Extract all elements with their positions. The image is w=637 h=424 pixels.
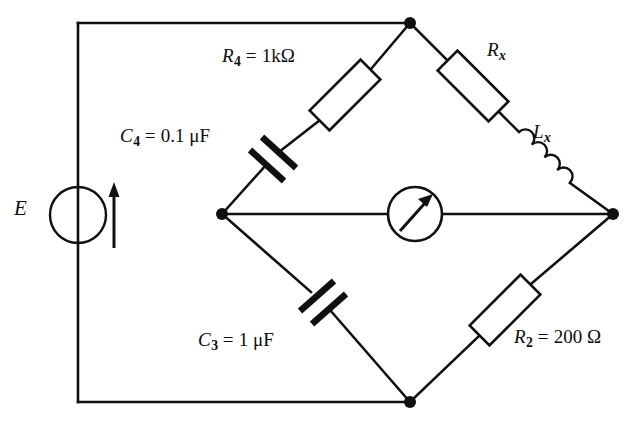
label-r4-symbol: R bbox=[222, 45, 234, 66]
arm-bottom-right bbox=[410, 214, 613, 402]
label-r2-symbol: R bbox=[514, 326, 526, 347]
wire-arm-bl-seg1 bbox=[222, 214, 311, 292]
wire-arm-tl-seg1 bbox=[222, 165, 266, 214]
node-dot-left bbox=[216, 208, 228, 220]
label-c4-value: 0.1 μF bbox=[161, 125, 210, 146]
label-c3-equals: = bbox=[223, 329, 234, 350]
node-dot-right bbox=[607, 208, 619, 220]
detector-branch bbox=[222, 187, 613, 241]
label-r2-value: 200 Ω bbox=[554, 326, 601, 347]
resistor-r4-symbol bbox=[310, 60, 381, 131]
wire-arm-tr-seg3 bbox=[570, 183, 613, 214]
wire-arm-br-seg1 bbox=[410, 336, 479, 402]
ac-voltage-source[interactable] bbox=[50, 182, 120, 248]
label-lx-symbol: L bbox=[533, 121, 544, 142]
label-r4: R4 = 1kΩ bbox=[222, 46, 295, 69]
label-lx: Lx bbox=[533, 122, 551, 145]
label-r4-value: 1kΩ bbox=[262, 45, 295, 66]
label-c4: C4 = 0.1 μF bbox=[120, 126, 210, 149]
wire-arm-bl-seg2 bbox=[330, 310, 410, 402]
label-rx: Rx bbox=[487, 40, 506, 63]
wire-arm-tr-seg2 bbox=[499, 112, 519, 132]
label-c3: C3 = 1 μF bbox=[198, 330, 274, 353]
label-c3-value: 1 μF bbox=[239, 329, 274, 350]
label-c4-symbol: C bbox=[120, 125, 133, 146]
label-source-e-symbol: E bbox=[14, 196, 27, 220]
label-c3-subscript: 3 bbox=[211, 338, 218, 353]
label-c4-equals: = bbox=[145, 125, 156, 146]
node-dot-top bbox=[404, 17, 416, 29]
wire-arm-tr-seg1 bbox=[410, 23, 447, 60]
label-r2-subscript: 2 bbox=[526, 335, 533, 350]
circuit-diagram-canvas: E R4 = 1kΩ C4 = 0.1 μF Rx Lx C3 = 1 μF R… bbox=[0, 0, 637, 424]
label-r4-subscript: 4 bbox=[234, 54, 241, 69]
label-rx-subscript: x bbox=[499, 48, 506, 63]
arm-bottom-left bbox=[222, 214, 410, 402]
wire-arm-br-seg2 bbox=[531, 214, 613, 284]
label-r2: R2 = 200 Ω bbox=[514, 327, 601, 350]
source-arrow-head bbox=[109, 182, 120, 197]
galvanometer[interactable] bbox=[388, 187, 442, 241]
label-lx-subscript: x bbox=[544, 130, 551, 145]
label-c4-subscript: 4 bbox=[133, 134, 140, 149]
circuit-schematic-svg bbox=[0, 0, 637, 424]
label-rx-symbol: R bbox=[487, 39, 499, 60]
arm-top-right bbox=[410, 23, 613, 214]
node-dot-bottom bbox=[404, 396, 416, 408]
label-source-e: E bbox=[14, 198, 27, 219]
label-r4-equals: = bbox=[246, 45, 257, 66]
resistor-r4-body bbox=[310, 60, 381, 131]
label-c3-symbol: C bbox=[198, 329, 211, 350]
wire-arm-tl-seg3 bbox=[371, 23, 410, 69]
wire-arm-tl-seg2 bbox=[279, 120, 320, 152]
label-r2-equals: = bbox=[538, 326, 549, 347]
